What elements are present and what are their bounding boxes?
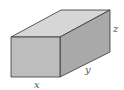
label-x: x	[34, 79, 40, 90]
box-diagram: x y z	[0, 0, 124, 90]
front-face	[11, 37, 60, 77]
label-z: z	[112, 23, 119, 34]
label-y: y	[84, 64, 91, 75]
